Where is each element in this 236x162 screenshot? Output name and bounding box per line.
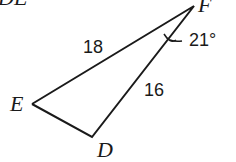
partial-title-text: DE <box>0 0 28 10</box>
triangle-diagram: DE F E D 18 16 21° <box>0 0 236 162</box>
side-label-ef: 18 <box>83 37 103 57</box>
vertex-label-e: E <box>9 91 24 116</box>
triangle-def <box>32 6 194 137</box>
angle-label-f: 21° <box>189 30 216 50</box>
vertex-label-d: D <box>96 137 113 162</box>
vertex-label-f: F <box>197 0 212 17</box>
side-label-df: 16 <box>144 80 164 100</box>
